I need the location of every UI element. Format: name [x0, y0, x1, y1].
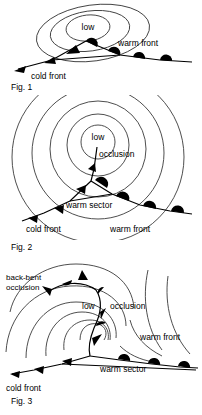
occlusion-triangle — [42, 286, 52, 296]
isobar-spiral-5 — [6, 286, 126, 352]
cold-front-triangle — [10, 371, 20, 378]
cold-front-triangle — [62, 358, 72, 366]
warm-front-semicircle — [95, 177, 108, 188]
cold-front-triangle — [66, 45, 80, 54]
warm-front-semicircle — [143, 201, 156, 209]
figure-2-occluding-cyclone: low occlusion warm sector cold — [0, 95, 202, 240]
fig2-low-label: low — [92, 132, 106, 142]
fig3-back-bent-occlusion-symbols — [42, 270, 88, 296]
fig2-occlusion-label: occlusion — [99, 149, 135, 159]
fig1-cold-front-label: cold front — [31, 71, 67, 81]
cold-front-triangle — [28, 215, 38, 223]
isobar-spiral-2 — [64, 320, 109, 350]
warm-front-semicircle — [160, 54, 172, 61]
fig1-isobars — [33, 0, 154, 69]
fig2-figure-number: Fig. 2 — [11, 242, 33, 252]
cold-front-triangle — [44, 57, 56, 64]
fig1-figure-number: Fig. 1 — [11, 82, 33, 92]
fig3-warm-front-label: warm front — [139, 332, 181, 342]
figure-3-footer-block: cold front Fig. 3 — [0, 382, 202, 415]
fig3-occlusion-label: occlusion — [110, 301, 146, 311]
depression-evolution-diagram: low cold front warm front Fig. 1 — [0, 0, 202, 415]
occlusion-semicircle — [62, 280, 72, 286]
fig3-back-bent-occlusion-label-line2: occlusion — [6, 283, 39, 292]
figure-3-mature-occlusion: low occlusion back-bent occlusion — [0, 254, 202, 382]
occlusion-triangle — [92, 334, 102, 346]
fig2-isobars — [12, 95, 184, 240]
fig2-occlusion-symbols — [88, 163, 96, 172]
occlusion-triangle — [78, 270, 88, 280]
figure-1-wave-cyclone: low cold front warm front Fig. 1 — [0, 0, 202, 95]
isobar-2 — [67, 114, 129, 176]
fig1-warm-sector-boundary — [52, 55, 120, 60]
fig3-back-bent-occlusion-line — [48, 283, 96, 292]
fig2-warm-front-label: warm front — [109, 224, 151, 234]
fig3-cold-front-label: cold front — [6, 383, 42, 393]
fig3-figure-number: Fig. 3 — [11, 396, 33, 406]
warm-front-semicircle — [133, 52, 145, 59]
fig1-warm-front-label: warm front — [117, 38, 159, 48]
fig3-back-bent-occlusion-label-line1: back-bent — [6, 273, 42, 282]
fig3-low-label: low — [82, 301, 96, 311]
cold-front-triangle — [14, 66, 26, 73]
isobar-right-arc-2 — [167, 276, 190, 354]
fig3-cold-front-symbols — [10, 358, 72, 378]
fig2-cold-front-label: cold front — [26, 224, 62, 234]
fig2-warm-sector-label: warm sector — [65, 200, 112, 210]
isobar-spiral-3 — [46, 312, 110, 356]
isobar-outer — [12, 95, 184, 240]
occlusion-semicircle — [98, 287, 104, 294]
figure-2-number-block: Fig. 2 — [0, 240, 202, 254]
fig1-low-label: low — [82, 22, 96, 32]
occlusion-triangle — [88, 163, 96, 172]
fig3-warm-sector-label: warm sector — [99, 364, 146, 374]
